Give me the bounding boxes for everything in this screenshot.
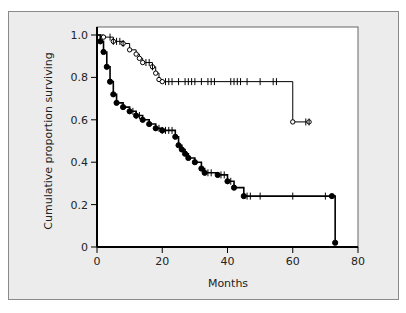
x-axis-title: Months xyxy=(208,277,248,290)
event-marker-filled xyxy=(98,39,103,44)
event-marker-filled xyxy=(173,134,178,139)
x-tick-label: 0 xyxy=(94,255,101,268)
y-axis-ticks: 00.20.40.60.81.0 xyxy=(71,29,98,254)
event-marker-filled xyxy=(147,121,152,126)
y-tick-label: 0.2 xyxy=(71,199,89,212)
event-marker-filled xyxy=(241,194,246,199)
x-tick-label: 20 xyxy=(155,255,169,268)
event-marker-filled xyxy=(153,126,158,131)
plot-area xyxy=(97,27,358,247)
event-marker-open xyxy=(137,56,141,60)
event-marker-filled xyxy=(202,170,207,175)
event-marker-filled xyxy=(121,104,126,109)
event-marker-filled xyxy=(186,155,191,160)
x-tick-label: 80 xyxy=(351,255,365,268)
event-marker-filled xyxy=(114,100,119,105)
event-marker-open xyxy=(160,79,164,83)
event-marker-filled xyxy=(215,172,220,177)
survival-chart: 00.20.40.60.81.0 020406080 Months Cumula… xyxy=(0,0,406,313)
event-marker-filled xyxy=(101,49,106,54)
event-marker-open xyxy=(101,35,105,39)
event-marker-open xyxy=(127,48,131,52)
event-marker-filled xyxy=(231,185,236,190)
y-tick-label: 0.8 xyxy=(71,71,89,84)
y-axis-title: Cumulative proportion surviving xyxy=(42,52,55,229)
event-marker-filled xyxy=(111,92,116,97)
event-marker-filled xyxy=(333,240,338,245)
event-marker-filled xyxy=(225,179,230,184)
event-marker-filled xyxy=(140,117,145,122)
event-marker-filled xyxy=(329,194,334,199)
event-marker-filled xyxy=(192,160,197,165)
x-tick-label: 60 xyxy=(286,255,300,268)
x-tick-label: 40 xyxy=(221,255,235,268)
y-tick-label: 1.0 xyxy=(71,29,89,42)
y-tick-label: 0 xyxy=(81,241,88,254)
y-tick-label: 0.6 xyxy=(71,114,89,127)
event-marker-open xyxy=(154,71,158,75)
x-axis-ticks: 020406080 xyxy=(94,247,366,268)
event-marker-filled xyxy=(107,79,112,84)
event-marker-open xyxy=(291,120,295,124)
event-marker-open xyxy=(134,52,138,56)
event-marker-open xyxy=(140,60,144,64)
event-marker-filled xyxy=(127,109,132,114)
y-tick-label: 0.4 xyxy=(71,156,89,169)
event-marker-filled xyxy=(104,64,109,69)
